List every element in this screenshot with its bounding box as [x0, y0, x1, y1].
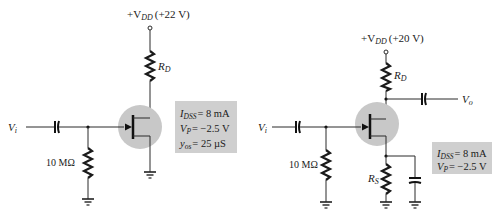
circuit-diagrams: +VDD(+22 V) RD Vi [0, 0, 504, 224]
right-bypass-ground-icon [409, 202, 421, 208]
left-input-capacitor-icon [55, 121, 59, 133]
right-circuit: +VDD(+20 V) RD Vo Vi [258, 32, 492, 208]
left-circuit: +VDD(+22 V) RD Vi [8, 8, 237, 205]
left-rd-resistor-icon [146, 51, 154, 81]
right-jfet-highlight [355, 102, 399, 146]
left-jfet-highlight [118, 105, 162, 149]
right-input-capacitor-icon [296, 121, 300, 133]
right-vdd-terminal-icon [384, 50, 388, 54]
right-parameter-box: IDSS= 8 mA VP= −2.5 V [432, 142, 492, 174]
right-gate-ground-icon [320, 202, 332, 208]
left-gate-resistor-icon [84, 148, 92, 178]
right-bypass-capacitor-icon [409, 178, 421, 183]
right-rs-label: RS [367, 172, 379, 186]
right-vo-label: Vo [462, 93, 473, 107]
left-vi-label: Vi [8, 121, 17, 135]
right-vdd-label: +VDD(+20 V) [361, 32, 424, 46]
right-rs-ground-icon [380, 202, 392, 208]
right-gate-resistor-label: 10 MΩ [289, 159, 318, 170]
left-vdd-terminal-icon [148, 26, 152, 30]
left-source-ground-icon [144, 172, 156, 178]
right-gate-resistor-icon [322, 150, 330, 180]
right-output-capacitor-icon [422, 93, 426, 105]
left-gate-ground-icon [82, 199, 94, 205]
left-gate-resistor-label: 10 MΩ [46, 157, 75, 168]
right-rd-label: RD [393, 69, 407, 83]
right-vi-label: Vi [258, 121, 267, 135]
left-vdd-label: +VDD(+22 V) [127, 8, 190, 22]
left-parameter-box: IDSS= 8 mA VP= −2.5 V yos= 25 µS [175, 101, 237, 153]
right-rs-resistor-icon [382, 164, 390, 194]
right-rd-resistor-icon [382, 63, 390, 91]
left-rd-label: RD [157, 60, 171, 74]
